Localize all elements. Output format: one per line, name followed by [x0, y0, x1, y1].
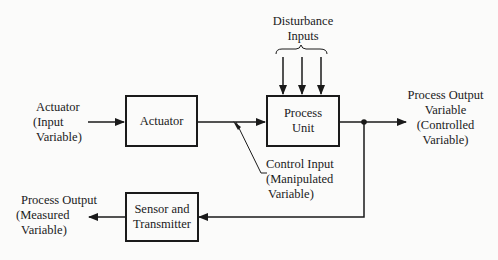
- label-line: Process Output: [16, 193, 97, 208]
- process-unit-label-1: Process: [284, 106, 322, 121]
- control-input-leader: [236, 122, 267, 173]
- process-unit-label-2: Unit: [292, 121, 314, 136]
- sensor-transmitter-block: Sensor and Transmitter: [125, 192, 199, 242]
- label-line: Variable): [393, 133, 498, 148]
- label-line: (Controlled: [393, 118, 498, 133]
- sensor-label-2: Transmitter: [133, 217, 191, 232]
- disturbance-brace: [276, 45, 327, 54]
- sensor-label-1: Sensor and: [134, 202, 189, 217]
- process-output-label: Process Output Variable (Controlled Vari…: [393, 88, 498, 148]
- label-line: Actuator: [33, 100, 82, 115]
- actuator-block-label: Actuator: [140, 114, 184, 129]
- label-line: Variable): [16, 223, 97, 238]
- label-line: Variable: [393, 103, 498, 118]
- label-line: Disturbance: [258, 14, 348, 29]
- actuator-block: Actuator: [125, 95, 198, 147]
- actuator-input-label: Actuator (Input Variable): [33, 100, 82, 145]
- label-line: Inputs: [258, 29, 348, 44]
- label-line: Variable): [33, 130, 82, 145]
- label-line: (Measured: [16, 208, 97, 223]
- disturbance-label: Disturbance Inputs: [258, 14, 348, 44]
- control-input-label: Control Input (Manipulated Variable): [266, 157, 334, 202]
- measured-output-label: Process Output (Measured Variable): [16, 193, 97, 238]
- label-line: (Manipulated: [266, 172, 334, 187]
- label-line: Process Output: [393, 88, 498, 103]
- label-line: Variable): [266, 187, 334, 202]
- label-line: Control Input: [266, 157, 334, 172]
- process-unit-block: Process Unit: [266, 95, 340, 147]
- label-line: (Input: [33, 115, 82, 130]
